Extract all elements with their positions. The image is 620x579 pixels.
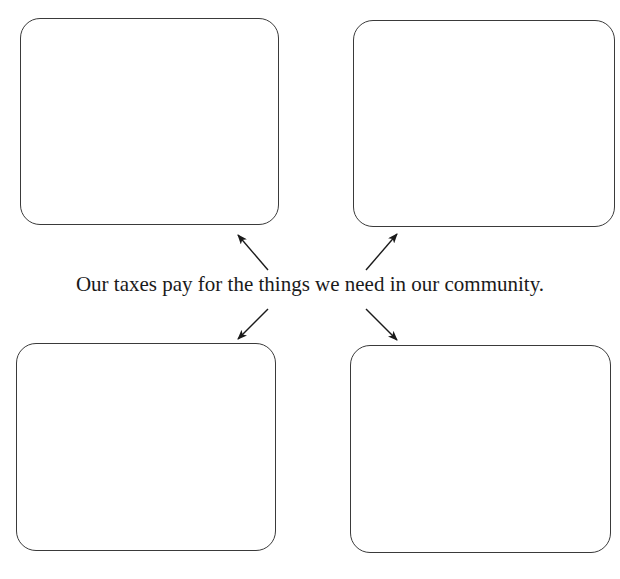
central-statement: Our taxes pay for the things we need in … [0, 272, 620, 297]
answer-box-bottom-left[interactable] [16, 343, 276, 551]
arrow-to-top-right-icon [366, 234, 397, 270]
arrow-to-top-left-icon [238, 235, 268, 270]
answer-box-bottom-right[interactable] [350, 345, 611, 553]
arrow-to-bottom-left-icon [238, 309, 268, 339]
arrow-to-bottom-right-icon [366, 309, 397, 340]
answer-box-top-right[interactable] [353, 20, 615, 227]
answer-box-top-left[interactable] [20, 18, 279, 225]
